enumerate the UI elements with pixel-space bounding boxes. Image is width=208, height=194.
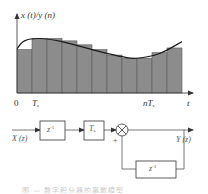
sample-bar <box>167 48 182 93</box>
tick-nts-base: nT <box>143 98 153 108</box>
feedback-delay-label: z-1 <box>149 164 156 173</box>
sum-plus-sign: + <box>113 137 118 145</box>
gain-subscript: s <box>93 128 95 133</box>
sample-bar <box>77 45 92 93</box>
y-axis-label: x (t)/y (n) <box>21 11 55 20</box>
integrator-diagram <box>0 0 208 194</box>
gain-block-label: Ts <box>89 125 95 133</box>
tick-nts-subscript: s <box>153 103 155 108</box>
sample-bar <box>137 58 152 93</box>
sample-bar <box>107 55 122 93</box>
sample-bar <box>92 50 107 93</box>
input-label: X (z) <box>12 135 27 143</box>
feedback-path-left <box>122 136 136 169</box>
x-axis-label: t <box>187 99 190 108</box>
figure-caption: 图 — 数字积分器的离散模型 <box>22 185 188 193</box>
origin-label: 0 <box>14 99 19 108</box>
sample-bar <box>47 38 62 93</box>
sample-bar <box>17 50 32 93</box>
sample-bar <box>152 53 167 93</box>
sample-bar <box>32 38 47 93</box>
delay-1-exponent: -1 <box>50 125 54 130</box>
tick-nts-label: nTs <box>143 99 154 108</box>
block-diagram <box>12 121 193 178</box>
delay-block-1-label: z-1 <box>47 125 54 134</box>
tick-ts-subscript: s <box>37 103 39 108</box>
tick-ts-label: Ts <box>32 99 39 108</box>
sample-bars <box>17 38 182 93</box>
sample-bar <box>122 58 137 93</box>
output-label: Y (z) <box>176 136 191 144</box>
sample-bar <box>62 41 77 93</box>
feedback-delay-exponent: -1 <box>152 164 156 169</box>
